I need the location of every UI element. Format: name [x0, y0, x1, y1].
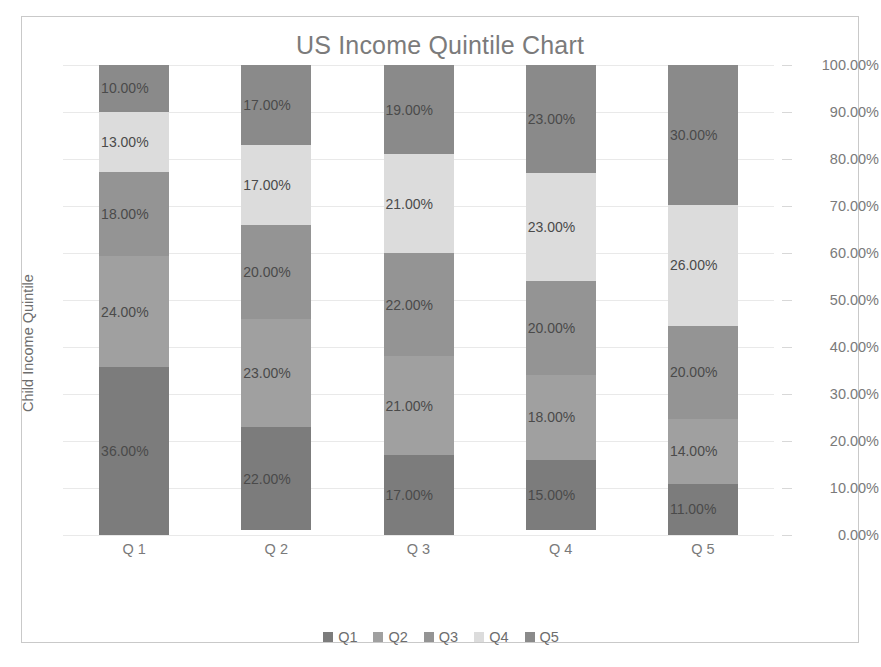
bar-segment-q5: 23.00% — [526, 65, 596, 173]
bar-column: 10.00%13.00%18.00%24.00%36.00% — [63, 65, 205, 535]
bar-column: 30.00%26.00%20.00%14.00%11.00% — [632, 65, 774, 535]
y-tick-mark — [782, 253, 792, 254]
bar-segment-label: 17.00% — [243, 97, 290, 113]
bar-segment-q3: 20.00% — [526, 281, 596, 375]
legend-item-q5[interactable]: Q5 — [525, 629, 559, 645]
plot-area: 10.00%13.00%18.00%24.00%36.00%17.00%17.0… — [63, 65, 774, 535]
bar-segment-label: 20.00% — [528, 320, 575, 336]
bar-segment-q2: 24.00% — [99, 256, 169, 368]
chart-frame: US Income Quintile Chart Child Income Qu… — [21, 16, 859, 643]
bar-segment-q4: 17.00% — [241, 145, 311, 225]
bar-segment-q3: 18.00% — [99, 172, 169, 256]
bar-column: 17.00%17.00%20.00%23.00%22.00% — [205, 65, 347, 535]
bar-segment-q1: 17.00% — [384, 455, 454, 535]
y-tick-label: 50.00% — [830, 292, 879, 308]
bar-column: 19.00%21.00%22.00%21.00%17.00% — [347, 65, 489, 535]
bar-segment-label: 11.00% — [670, 501, 716, 517]
legend-swatch-icon — [474, 632, 484, 642]
bar-segment-label: 23.00% — [528, 219, 575, 235]
bar-column: 23.00%23.00%20.00%18.00%15.00% — [490, 65, 632, 535]
y-tick-mark — [782, 65, 792, 66]
bar-segment-q4: 21.00% — [384, 154, 454, 253]
legend-item-q2[interactable]: Q2 — [373, 629, 407, 645]
y-axis-ticks: 100.00%90.00%80.00%70.00%60.00%50.00%40.… — [782, 65, 881, 535]
legend-label: Q3 — [439, 629, 458, 645]
y-tick-label: 30.00% — [830, 386, 879, 402]
bar-segment-label: 26.00% — [670, 257, 717, 273]
bar-segment-q3: 20.00% — [668, 326, 738, 419]
y-tick-label: 70.00% — [830, 198, 879, 214]
stacked-bar: 17.00%17.00%20.00%23.00%22.00% — [241, 65, 311, 535]
legend-label: Q2 — [388, 629, 407, 645]
bar-segment-q4: 26.00% — [668, 205, 738, 326]
y-tick-mark — [782, 159, 792, 160]
y-tick-label: 0.00% — [838, 527, 879, 543]
bar-segment-q3: 20.00% — [241, 225, 311, 319]
y-tick-label: 60.00% — [830, 245, 879, 261]
bar-segment-q5: 19.00% — [384, 65, 454, 154]
legend-item-q4[interactable]: Q4 — [474, 629, 508, 645]
bar-segment-q5: 17.00% — [241, 65, 311, 145]
x-axis-label: Q 5 — [632, 541, 774, 557]
y-tick-label: 10.00% — [830, 480, 879, 496]
y-tick-mark — [782, 535, 792, 536]
legend-label: Q1 — [338, 629, 357, 645]
y-tick-label: 100.00% — [822, 57, 879, 73]
legend-swatch-icon — [373, 632, 383, 642]
bar-segment-q5: 10.00% — [99, 65, 169, 112]
chart-legend: Q1Q2Q3Q4Q5 — [22, 629, 860, 645]
legend-swatch-icon — [525, 632, 535, 642]
legend-label: Q4 — [489, 629, 508, 645]
y-tick-mark — [782, 112, 792, 113]
legend-swatch-icon — [424, 632, 434, 642]
stacked-bar: 19.00%21.00%22.00%21.00%17.00% — [384, 65, 454, 535]
y-tick-mark — [782, 441, 792, 442]
legend-item-q1[interactable]: Q1 — [323, 629, 357, 645]
bar-segment-q1: 22.00% — [241, 427, 311, 530]
y-tick-mark — [782, 347, 792, 348]
bar-segment-label: 18.00% — [101, 206, 148, 222]
stacked-bar: 30.00%26.00%20.00%14.00%11.00% — [668, 65, 738, 535]
y-tick-label: 20.00% — [830, 433, 879, 449]
bar-segment-q2: 14.00% — [668, 419, 738, 484]
y-axis-title: Child Income Quintile — [20, 223, 36, 463]
bar-segment-label: 13.00% — [101, 134, 148, 150]
bar-segment-label: 23.00% — [528, 111, 575, 127]
y-tick-mark — [782, 300, 792, 301]
bar-segment-label: 22.00% — [386, 297, 433, 313]
bar-segment-q3: 22.00% — [384, 253, 454, 356]
legend-item-q3[interactable]: Q3 — [424, 629, 458, 645]
bar-segment-q1: 11.00% — [668, 484, 738, 535]
bar-segment-label: 21.00% — [386, 398, 433, 414]
bar-segment-label: 17.00% — [386, 487, 433, 503]
legend-swatch-icon — [323, 632, 333, 642]
bar-segment-label: 24.00% — [101, 304, 148, 320]
bar-segment-q2: 18.00% — [526, 375, 596, 460]
bar-segment-q2: 23.00% — [241, 319, 311, 427]
x-axis-label: Q 4 — [490, 541, 632, 557]
stacked-bar: 23.00%23.00%20.00%18.00%15.00% — [526, 65, 596, 535]
x-axis-label: Q 3 — [347, 541, 489, 557]
x-axis-labels: Q 1Q 2Q 3Q 4Q 5 — [63, 541, 774, 557]
bar-segment-label: 18.00% — [528, 409, 575, 425]
bar-segment-label: 21.00% — [386, 196, 433, 212]
gridline — [63, 535, 774, 536]
bar-segment-label: 15.00% — [528, 487, 575, 503]
chart-title: US Income Quintile Chart — [22, 31, 858, 60]
bar-segment-label: 17.00% — [243, 177, 290, 193]
y-tick-label: 40.00% — [830, 339, 879, 355]
bar-segment-label: 23.00% — [243, 365, 290, 381]
bar-segment-q4: 23.00% — [526, 173, 596, 281]
bar-segment-q4: 13.00% — [99, 112, 169, 173]
legend-label: Q5 — [540, 629, 559, 645]
y-tick-mark — [782, 394, 792, 395]
y-tick-mark — [782, 206, 792, 207]
stacked-bar: 10.00%13.00%18.00%24.00%36.00% — [99, 65, 169, 535]
bar-segment-label: 10.00% — [101, 80, 148, 96]
bar-segment-label: 19.00% — [386, 102, 433, 118]
bar-segment-q2: 21.00% — [384, 356, 454, 455]
x-axis-label: Q 2 — [205, 541, 347, 557]
bar-segment-label: 30.00% — [670, 127, 717, 143]
bar-group: 10.00%13.00%18.00%24.00%36.00%17.00%17.0… — [63, 65, 774, 535]
x-axis-label: Q 1 — [63, 541, 205, 557]
